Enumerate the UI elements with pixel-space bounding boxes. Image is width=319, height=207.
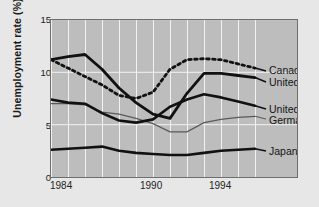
label-leader-lines xyxy=(255,68,266,151)
series-label-japan: Japan xyxy=(269,146,298,157)
y-tick-label-10: 10 xyxy=(11,68,51,78)
gridlines xyxy=(51,20,297,177)
y-tick-label-15: 15 xyxy=(11,15,51,25)
series-label-canada: Canada xyxy=(269,65,298,76)
unemployment-rate-line-chart: Unemployment rate (%) 15 10 5 0 1984 199… xyxy=(0,0,319,207)
x-tick-label-1990: 1990 xyxy=(140,181,162,191)
y-tick-label-5: 5 xyxy=(11,121,51,131)
x-tick-label-1994: 1994 xyxy=(209,181,231,191)
x-tick-label-1984: 1984 xyxy=(50,181,72,191)
series-label-united-kingdom: United Kingdom xyxy=(269,77,298,88)
y-tick-label-0: 0 xyxy=(11,173,51,183)
plot-svg xyxy=(51,20,297,177)
plot-area: Canada United Kingdom United States Germ… xyxy=(50,19,298,178)
series-label-germany: Germany xyxy=(269,115,298,126)
